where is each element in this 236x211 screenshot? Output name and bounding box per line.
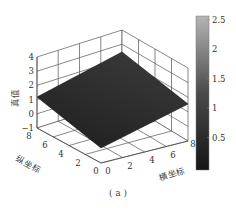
y-tick: 2 [75, 158, 80, 168]
x-tick: 6 [170, 150, 175, 160]
y-tick: 6 [42, 140, 47, 150]
y-axis-label: 纵坐标 [14, 153, 42, 175]
z-tick: 4 [29, 52, 34, 62]
y-tick: 8 [26, 131, 31, 141]
x-tick: 2 [127, 161, 132, 171]
colorbar-tick: 1.5 [212, 74, 226, 84]
z-tick: 0 [29, 109, 34, 119]
z-tick: 1 [29, 95, 34, 105]
z-tick: 2 [29, 80, 34, 90]
colorbar-tick: 2.5 [212, 15, 226, 25]
surface-plot: 4 3 2 1 0 −1 真值 8 6 4 2 0 纵坐标 0 2 4 6 8 … [0, 0, 236, 211]
x-tick: 0 [105, 166, 110, 176]
colorbar-tick: 1 [212, 103, 217, 113]
x-tick: 8 [190, 139, 195, 149]
y-tick: 4 [58, 149, 63, 159]
colorbar-tick: 0.5 [212, 133, 226, 143]
x-axis-label: 横坐标 [158, 165, 187, 183]
x-tick: 4 [149, 155, 154, 165]
z-tick: 3 [29, 66, 34, 76]
z-axis-label: 真值 [10, 89, 20, 107]
z-axis-ticks: 4 3 2 1 0 −1 [21, 52, 34, 133]
colorbar: 2.5 2 1.5 1 0.5 [196, 15, 226, 171]
figure-caption: ( a ) [0, 188, 236, 198]
colorbar-tick: 2 [212, 44, 217, 54]
y-tick: 0 [93, 166, 98, 176]
